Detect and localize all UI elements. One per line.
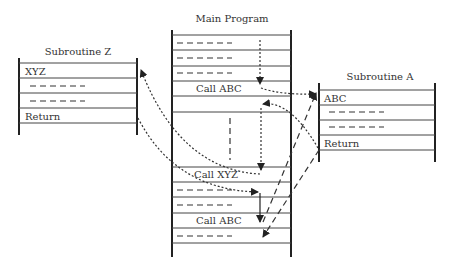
main-program-rows <box>172 35 291 243</box>
subroutine-a-title: Subroutine A <box>347 71 415 82</box>
subroutine-z-block: Subroutine Z XYZ Return <box>19 46 137 135</box>
call-abc-label-1: Call ABC <box>196 83 242 94</box>
call-abc-label-2: Call ABC <box>196 215 242 226</box>
call-arrow-to-subroutine-a <box>261 88 316 94</box>
main-program-title: Main Program <box>195 13 269 24</box>
subroutine-z-title: Subroutine Z <box>45 46 112 57</box>
subroutine-z-return-label: Return <box>25 111 61 122</box>
return-arrow-from-subroutine-z <box>138 118 258 192</box>
call-xyz-label: Call XYZ <box>194 169 238 180</box>
subroutine-call-diagram: Main Program Call ABC Call XYZ Call ABC <box>0 0 454 260</box>
subroutine-a-return-label: Return <box>324 138 360 149</box>
subroutine-a-block: Subroutine A ABC Return <box>319 71 435 162</box>
subroutine-a-entry-label: ABC <box>323 93 347 104</box>
subroutine-z-entry-label: XYZ <box>25 66 46 77</box>
